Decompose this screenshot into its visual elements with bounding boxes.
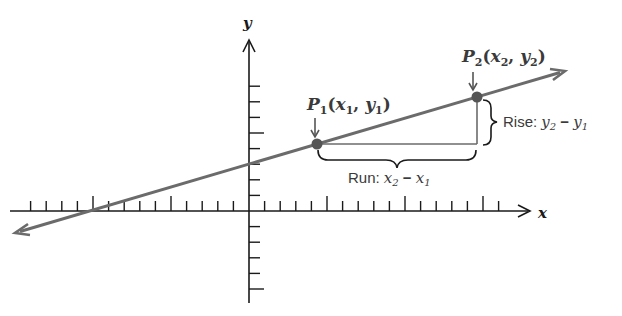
p2-label: P2(x2, y2) <box>461 46 546 69</box>
diagram-canvas: x y P1(x1, y1) P2(x2, y2) Rise: y2 − y1 … <box>0 0 622 316</box>
x-axis-label: x <box>537 204 548 222</box>
p2-pointer-arrow-icon <box>469 72 477 90</box>
p1-label: P1(x1, y1) <box>306 94 391 117</box>
run-label: Run: x2 − x1 <box>348 169 431 188</box>
slope-diagram: x y P1(x1, y1) P2(x2, y2) Rise: y2 − y1 … <box>0 0 622 316</box>
rise-label: Rise: y2 − y1 <box>503 113 588 132</box>
point-p2 <box>472 92 483 103</box>
y-axis <box>243 40 264 303</box>
run-brace <box>318 150 476 168</box>
p1-pointer-arrow-icon <box>311 118 319 137</box>
y-axis-label: y <box>242 14 253 32</box>
x-axis <box>10 196 530 217</box>
y-axis-ticks <box>249 86 264 289</box>
point-p1 <box>312 139 323 150</box>
rise-brace <box>483 100 497 145</box>
